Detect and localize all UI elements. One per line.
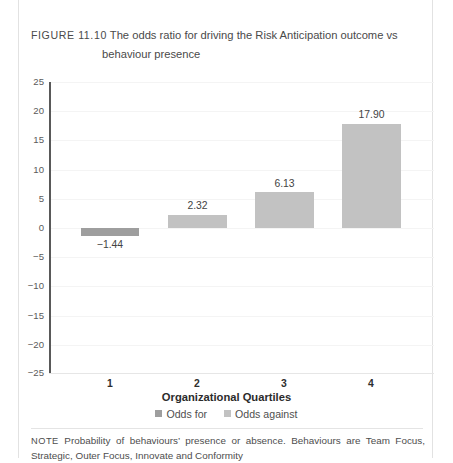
x-axis-title: Organizational Quartiles (19, 391, 434, 403)
note-label: NOTE (31, 436, 59, 446)
bar-quartile-4[interactable] (342, 124, 401, 228)
legend-item-odds-against[interactable]: Odds against (224, 407, 297, 420)
legend-swatch-odds-against (224, 410, 231, 417)
chart-legend: Odds for Odds against (19, 407, 434, 420)
chart-plot-area: 25 20 15 10 5 0 −5 −10 −15 −20 −25 −1.44… (19, 70, 434, 390)
bars-layer: −1.44 2.32 6.13 17.90 (19, 70, 434, 390)
figure-caption-line-2: behaviour presence (102, 45, 200, 64)
bar-label-quartile-4: 17.90 (341, 109, 402, 120)
bar-quartile-1[interactable] (81, 228, 139, 236)
legend-item-odds-for[interactable]: Odds for (155, 407, 207, 420)
bar-quartile-3[interactable] (255, 192, 314, 228)
figure-card: FIGURE 11.10 The odds ratio for driving … (18, 0, 433, 458)
figure-caption-line-1: The odds ratio for driving the Risk Anti… (110, 29, 398, 41)
figure-caption: FIGURE 11.10 The odds ratio for driving … (31, 26, 423, 45)
note-text: Probability of behaviours’ presence or a… (31, 435, 425, 461)
legend-swatch-odds-for (155, 410, 162, 417)
figure-note: NOTE Probability of behaviours’ presence… (31, 434, 425, 463)
note-divider (31, 428, 423, 429)
bar-label-quartile-1: −1.44 (80, 239, 140, 250)
x-tick-label-3: 3 (264, 378, 304, 389)
x-tick-label-1: 1 (90, 378, 130, 389)
legend-label-odds-for: Odds for (166, 408, 207, 420)
bar-label-quartile-3: 6.13 (254, 178, 315, 189)
x-tick-label-2: 2 (177, 378, 217, 389)
legend-label-odds-against: Odds against (235, 408, 297, 420)
figure-number: FIGURE 11.10 (31, 29, 107, 41)
x-tick-label-4: 4 (351, 378, 391, 389)
bar-label-quartile-2: 2.32 (167, 200, 228, 211)
bar-quartile-2[interactable] (168, 215, 227, 229)
